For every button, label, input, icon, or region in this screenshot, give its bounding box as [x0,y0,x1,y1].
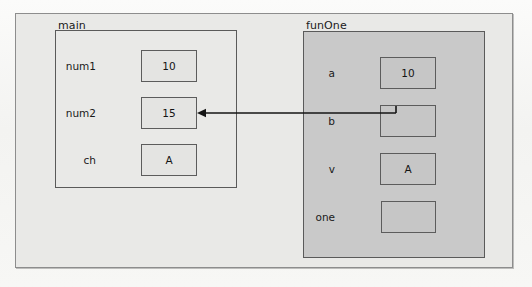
var-cell-num2: 15 [141,97,197,129]
var-cell-ch: A [141,144,197,176]
var-label-v: v [329,163,335,175]
diagram-canvas: main num1 10 num2 15 ch A funOne a 10 b … [0,0,532,287]
var-cell-a: 10 [380,57,436,89]
var-label-num1: num1 [66,60,96,72]
var-cell-v: A [380,153,436,185]
var-label-a: a [329,67,335,79]
var-label-b: b [328,115,335,127]
var-cell-num1: 10 [141,50,197,82]
var-label-one: one [315,211,335,223]
scope-label-main: main [58,20,86,32]
var-label-num2: num2 [66,107,96,119]
var-label-ch: ch [84,154,96,166]
var-cell-one [381,201,436,233]
var-cell-b [380,105,436,137]
scope-label-funone: funOne [306,20,347,32]
